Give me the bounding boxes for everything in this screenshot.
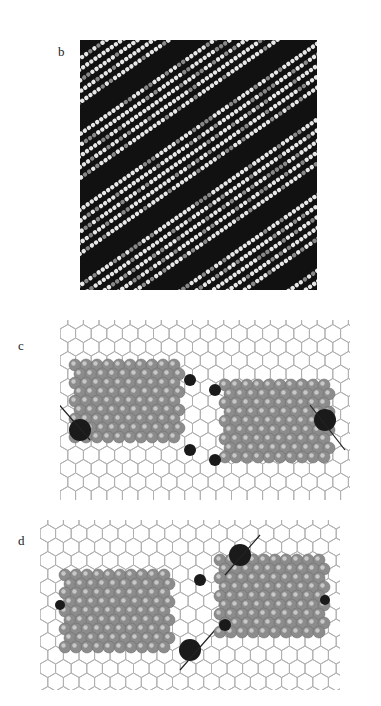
atom-highlight bbox=[298, 417, 302, 421]
atom-highlight bbox=[72, 607, 76, 611]
atom-highlight bbox=[93, 379, 97, 383]
hex-cell bbox=[239, 320, 255, 329]
hex-cell bbox=[212, 687, 228, 691]
atom-highlight bbox=[105, 643, 109, 647]
atom-highlight bbox=[142, 370, 146, 374]
atom-highlight bbox=[61, 625, 65, 629]
atom-highlight bbox=[276, 435, 280, 439]
atom-highlight bbox=[265, 619, 269, 623]
atom-highlight bbox=[87, 406, 91, 410]
atom-highlight bbox=[303, 408, 307, 412]
atom-highlight bbox=[320, 435, 324, 439]
atom-highlight bbox=[127, 643, 131, 647]
atom-highlight bbox=[237, 444, 241, 448]
hex-cell bbox=[180, 687, 196, 691]
atom-highlight bbox=[154, 580, 158, 584]
atom-highlight bbox=[325, 390, 329, 394]
atom-highlight bbox=[153, 424, 157, 428]
atom-highlight bbox=[293, 610, 297, 614]
stm-image bbox=[80, 40, 317, 290]
atom-highlight bbox=[243, 399, 247, 403]
atom-highlight bbox=[66, 616, 70, 620]
hex-cell bbox=[122, 487, 137, 501]
hex-cell bbox=[263, 487, 279, 501]
heteroatom bbox=[219, 619, 231, 631]
atom-highlight bbox=[221, 381, 225, 385]
atom-highlight bbox=[249, 574, 253, 578]
atom-highlight bbox=[99, 634, 103, 638]
atom-highlight bbox=[309, 619, 313, 623]
atom-highlight bbox=[259, 390, 263, 394]
atom-highlight bbox=[221, 583, 225, 587]
atom-highlight bbox=[148, 433, 152, 437]
atom-highlight bbox=[276, 565, 280, 569]
atom-highlight bbox=[309, 381, 313, 385]
atom-highlight bbox=[243, 453, 247, 457]
atom-highlight bbox=[77, 580, 81, 584]
atom-highlight bbox=[98, 406, 102, 410]
atom-highlight bbox=[243, 381, 247, 385]
atom-highlight bbox=[287, 399, 291, 403]
atom-highlight bbox=[115, 397, 119, 401]
hex-cell bbox=[141, 520, 157, 529]
atom-highlight bbox=[165, 634, 169, 638]
atom-highlight bbox=[98, 370, 102, 374]
hex-cell bbox=[348, 419, 350, 437]
hex-cell bbox=[243, 687, 259, 691]
atom-highlight bbox=[126, 433, 130, 437]
hex-cell bbox=[313, 520, 329, 529]
atom-highlight bbox=[232, 601, 236, 605]
atom-highlight bbox=[298, 583, 302, 587]
hex-cell bbox=[146, 320, 162, 329]
hex-cell bbox=[219, 520, 235, 529]
hex-cell bbox=[289, 687, 305, 691]
heteroatom bbox=[55, 600, 65, 610]
atom-highlight bbox=[110, 598, 114, 602]
atom-highlight bbox=[175, 424, 179, 428]
atom-highlight bbox=[121, 580, 125, 584]
heteroatom bbox=[320, 595, 330, 605]
atom-highlight bbox=[83, 625, 87, 629]
heteroatom bbox=[194, 574, 206, 586]
atom-highlight bbox=[143, 616, 147, 620]
atom-highlight bbox=[71, 397, 75, 401]
atom-highlight bbox=[104, 415, 108, 419]
hex-cell bbox=[224, 320, 240, 329]
hex-cell bbox=[71, 687, 87, 691]
panel-d-label: d bbox=[18, 533, 25, 549]
hex-cell bbox=[302, 320, 318, 329]
atom-highlight bbox=[292, 408, 296, 412]
hex-cell bbox=[188, 520, 204, 529]
hex-cell bbox=[56, 687, 72, 691]
atom-highlight bbox=[221, 399, 225, 403]
atom-highlight bbox=[72, 643, 76, 647]
atom-highlight bbox=[303, 444, 307, 448]
atom-highlight bbox=[88, 598, 92, 602]
atom-highlight bbox=[221, 435, 225, 439]
atom-highlight bbox=[104, 379, 108, 383]
atom-highlight bbox=[154, 598, 158, 602]
model-d-canvas bbox=[40, 520, 340, 690]
atom-highlight bbox=[304, 574, 308, 578]
atom-highlight bbox=[72, 589, 76, 593]
atom-highlight bbox=[282, 610, 286, 614]
atom-highlight bbox=[66, 634, 70, 638]
hex-cell bbox=[157, 520, 173, 529]
atom-highlight bbox=[131, 370, 135, 374]
hex-cell bbox=[348, 392, 350, 410]
atom-highlight bbox=[160, 643, 164, 647]
hex-cell bbox=[173, 520, 189, 529]
atom-highlight bbox=[72, 571, 76, 575]
hex-cell bbox=[154, 487, 170, 501]
atom-highlight bbox=[314, 390, 318, 394]
atom-highlight bbox=[87, 370, 91, 374]
molecular-model-c bbox=[60, 320, 350, 500]
hex-cell bbox=[60, 320, 68, 329]
atom-highlight bbox=[132, 598, 136, 602]
atom-highlight bbox=[170, 415, 174, 419]
atom-highlight bbox=[292, 444, 296, 448]
atom-highlight bbox=[149, 589, 153, 593]
atom-highlight bbox=[243, 565, 247, 569]
atom-highlight bbox=[116, 589, 120, 593]
atom-highlight bbox=[126, 415, 130, 419]
